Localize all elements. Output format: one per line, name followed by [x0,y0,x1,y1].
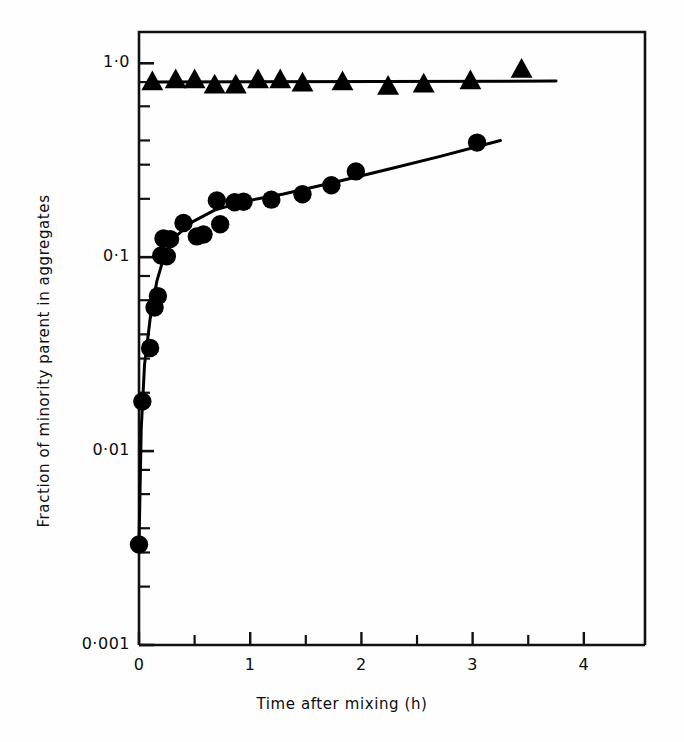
y-tick-label: 0·01 [30,440,130,459]
x-tick-label: 1 [220,655,280,674]
data-point-circle [174,214,192,232]
x-tick-label: 4 [554,655,614,674]
data-point-circle [468,133,486,151]
data-point-triangle [165,69,187,89]
data-point-triangle [204,74,226,94]
y-tick-label: 1·0 [30,52,130,71]
data-point-circle [211,215,229,233]
series-lines [139,81,556,544]
axis-frame-line [139,32,645,645]
plot-frame [139,32,645,645]
x-axis-ticks [139,632,584,645]
data-point-triangle [184,69,206,89]
data-point-triangle [247,69,269,89]
data-point-circle [149,287,167,305]
figure-container: Fraction of minority parent in aggregate… [0,0,684,742]
y-axis-title: Fraction of minority parent in aggregate… [35,151,53,571]
data-point-triangle [269,69,291,89]
data-point-circle [141,339,159,357]
series-line-circles [139,140,500,544]
data-point-triangle [511,58,533,78]
data-point-circle [130,535,148,553]
chart-plot-area [0,0,684,742]
data-point-circle [158,247,176,265]
data-point-circle [133,392,151,410]
x-axis-title: Time after mixing (h) [0,695,684,713]
data-point-circle [208,191,226,209]
data-point-circle [194,225,212,243]
data-point-circle [262,190,280,208]
data-point-circle [322,176,340,194]
data-point-triangle [141,71,163,91]
x-tick-label: 2 [331,655,391,674]
x-tick-label: 3 [443,655,503,674]
series-markers [130,58,533,554]
data-point-circle [234,193,252,211]
data-point-triangle [225,74,247,94]
data-point-triangle [459,70,481,90]
data-point-circle [161,230,179,248]
y-tick-label: 0·001 [30,634,130,653]
data-point-circle [347,162,365,180]
y-tick-label: 0·1 [30,246,130,265]
data-point-triangle [377,75,399,95]
x-tick-label: 0 [109,655,169,674]
data-point-circle [293,185,311,203]
